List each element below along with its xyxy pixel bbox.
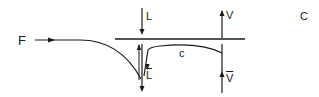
- feed-arrow: [35, 38, 80, 43]
- curve-label: c: [179, 48, 185, 59]
- corner-label: C: [300, 11, 308, 22]
- up-arrow-small: [137, 44, 141, 80]
- vapor-in-label: V: [226, 73, 233, 84]
- liquid-out-arrow: [140, 44, 145, 92]
- feed-curve: [80, 40, 141, 79]
- vapor-out-label: V: [226, 10, 233, 21]
- liquid-out-label: L: [146, 70, 152, 81]
- liquid-in-label: L: [146, 11, 152, 22]
- vapor-in-arrow: [220, 44, 225, 93]
- stage-diagram: [0, 0, 319, 97]
- liquid-in-arrow: [140, 8, 145, 35]
- feed-label: F: [18, 34, 26, 47]
- vapor-out-arrow: [220, 10, 225, 38]
